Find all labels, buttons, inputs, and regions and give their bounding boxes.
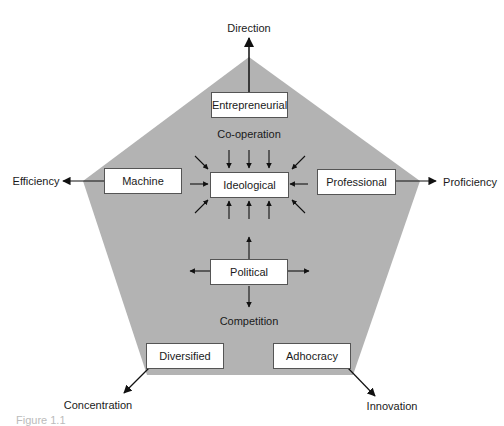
force-label-cooperation: Co-operation — [217, 128, 281, 140]
box-machine: Machine — [104, 168, 182, 194]
box-political: Political — [210, 259, 288, 285]
axis-label-proficiency: Proficiency — [443, 176, 497, 188]
axis-label-concentration: Concentration — [64, 399, 133, 411]
box-ideological: Ideological — [210, 172, 289, 198]
box-entrepreneurial: Entrepreneurial — [211, 92, 288, 118]
force-label-competition: Competition — [220, 315, 279, 327]
box-adhocracy: Adhocracy — [273, 343, 351, 369]
figure-caption: Figure 1.1 — [16, 414, 66, 426]
box-professional: Professional — [317, 169, 396, 195]
arrow-innovation — [347, 367, 375, 396]
arrow-concentration — [124, 367, 150, 393]
axis-label-direction: Direction — [227, 22, 270, 34]
axis-label-innovation: Innovation — [367, 400, 418, 412]
axis-label-efficiency: Efficiency — [13, 175, 60, 187]
box-diversified: Diversified — [146, 343, 224, 369]
